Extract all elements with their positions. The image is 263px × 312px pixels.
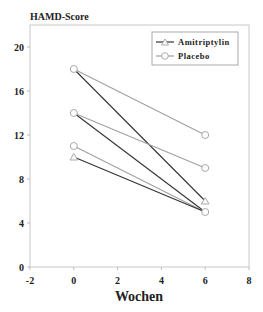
x-tick-label: -2 bbox=[26, 275, 34, 286]
y-axis: 048121620 bbox=[14, 42, 30, 273]
x-tick-label: 0 bbox=[71, 275, 76, 286]
circle-marker-icon bbox=[70, 143, 77, 150]
circle-marker-icon bbox=[202, 132, 209, 139]
placebo-line bbox=[74, 69, 205, 135]
x-axis-label: Wochen bbox=[115, 289, 163, 304]
circle-marker-icon bbox=[70, 66, 77, 73]
x-tick-label: 2 bbox=[115, 275, 120, 286]
hamd-line-chart: HAMD-Score 048121620 -202468 Amitriptyli… bbox=[0, 0, 263, 312]
y-tick-label: 16 bbox=[14, 86, 24, 97]
x-tick-label: 8 bbox=[247, 275, 252, 286]
legend-label-placebo: Placebo bbox=[178, 51, 210, 61]
y-tick-label: 12 bbox=[14, 130, 24, 141]
amitriptylin-line bbox=[74, 69, 205, 201]
x-axis: -202468 bbox=[26, 267, 252, 286]
y-tick-label: 8 bbox=[19, 174, 24, 185]
y-tick-label: 4 bbox=[19, 218, 24, 229]
circle-marker-icon bbox=[70, 110, 77, 117]
y-tick-label: 20 bbox=[14, 42, 24, 53]
legend-label-amitriptylin: Amitriptylin bbox=[178, 37, 230, 47]
placebo-line bbox=[74, 113, 205, 168]
legend-item-placebo: Placebo bbox=[156, 51, 210, 61]
x-tick-label: 6 bbox=[203, 275, 208, 286]
triangle-marker-icon bbox=[70, 154, 78, 161]
circle-marker-icon bbox=[202, 209, 209, 216]
series-lines bbox=[74, 69, 205, 212]
x-tick-label: 4 bbox=[159, 275, 164, 286]
legend: Amitriptylin Placebo bbox=[152, 32, 238, 65]
y-tick-label: 0 bbox=[19, 262, 24, 273]
circle-marker-icon bbox=[202, 165, 209, 172]
amitriptylin-line bbox=[74, 157, 205, 212]
amitriptylin-line bbox=[74, 113, 205, 212]
chart-title: HAMD-Score bbox=[30, 11, 89, 22]
placebo-line bbox=[74, 146, 205, 212]
circle-marker-icon bbox=[162, 53, 169, 60]
